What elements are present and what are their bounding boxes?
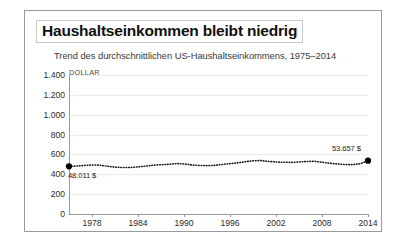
x-axis-tick <box>184 214 185 217</box>
x-axis-tick <box>368 214 369 217</box>
x-axis-tick-label: 1984 <box>128 218 147 228</box>
x-axis-line <box>69 214 368 215</box>
y-axis-tick-label: 200 <box>51 189 65 199</box>
y-axis-tick-label: 400 <box>51 169 65 179</box>
data-series-line <box>69 75 368 214</box>
x-axis-tick-label: 1990 <box>174 218 193 228</box>
y-axis-tick-label: 1.400 <box>43 70 65 80</box>
x-axis-tick-label: 1996 <box>220 218 239 228</box>
y-axis-tick-label: 1.000 <box>43 110 65 120</box>
x-axis-tick-label: 2014 <box>358 218 377 228</box>
x-axis-tick-label: 1978 <box>82 218 101 228</box>
chart-subtitle: Trend des durchschnittlichen US-Haushalt… <box>54 50 336 61</box>
x-axis-tick <box>230 214 231 217</box>
start-value-annotation: 48.011 $ <box>68 171 96 180</box>
plot-area: 02004006008001.0001.2001.400 19781984199… <box>69 75 368 214</box>
y-axis-tick-label: 600 <box>51 149 65 159</box>
x-axis-tick <box>138 214 139 217</box>
x-axis-tick <box>92 214 93 217</box>
x-axis-tick-label: 2008 <box>312 218 331 228</box>
page-title: Haushaltseinkommen bleibt niedrig <box>42 23 297 39</box>
y-axis-tick-label: 800 <box>51 130 65 140</box>
end-marker <box>365 158 371 164</box>
chart-figure: Haushaltseinkommen bleibt niedrig Trend … <box>24 10 382 232</box>
x-axis-tick <box>276 214 277 217</box>
start-marker <box>66 163 72 169</box>
x-axis-tick <box>322 214 323 217</box>
series-polyline <box>69 161 368 168</box>
end-value-annotation: 53.657 $ <box>332 144 361 153</box>
y-axis-tick-label: 0 <box>60 209 65 219</box>
y-axis-tick-label: 1.200 <box>43 90 65 100</box>
x-axis-tick-label: 2002 <box>266 218 285 228</box>
chart-title-box: Haushaltseinkommen bleibt niedrig <box>36 20 303 43</box>
